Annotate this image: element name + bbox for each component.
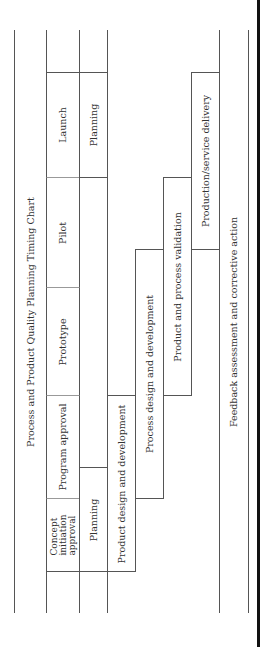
phase-pilot-label: Pilot (58, 221, 68, 243)
page-border (257, 0, 260, 647)
phase-concept-label: Concept initiation approval (50, 514, 77, 555)
bar-product-design-label: Product design and development (117, 404, 127, 563)
bar-process-design: Process design and development (135, 249, 164, 499)
bar-product-design: Product design and development (107, 395, 136, 572)
phase-program-approval: Program approval (46, 395, 80, 499)
bar-planning-start-label: Planning (89, 498, 99, 541)
chart-title-cell: Process and Product Quality Planning Tim… (14, 72, 47, 571)
bar-planning-start: Planning (79, 467, 108, 572)
phase-pilot: Pilot (46, 177, 80, 288)
phase-prototype: Prototype (46, 287, 80, 396)
phase-prototype-label: Prototype (58, 318, 68, 365)
phase-program-label: Program approval (58, 403, 68, 490)
bar-planning-end-label: Planning (89, 104, 99, 147)
phase-launch-label: Launch (58, 107, 68, 143)
bar-feedback-label: Feedback assessment and corrective actio… (229, 216, 239, 426)
phase-concept-approval: Concept initiation approval (46, 498, 80, 572)
bar-validation: Product and process validation (163, 177, 192, 396)
phase-launch: Launch (46, 72, 80, 178)
bar-process-design-label: Process design and development (145, 295, 155, 453)
bar-planning-end: Planning (79, 72, 108, 178)
bar-validation-label: Product and process validation (173, 212, 183, 362)
bar-feedback: Feedback assessment and corrective actio… (219, 72, 249, 571)
bar-production: Production/service delivery (191, 72, 220, 250)
bar-production-label: Production/service delivery (201, 95, 211, 227)
chart-title: Process and Product Quality Planning Tim… (26, 197, 36, 447)
